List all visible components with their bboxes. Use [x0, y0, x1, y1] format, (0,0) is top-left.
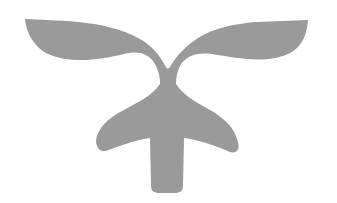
image-canvas	[0, 0, 337, 203]
sprout-emblem-icon	[0, 0, 337, 203]
